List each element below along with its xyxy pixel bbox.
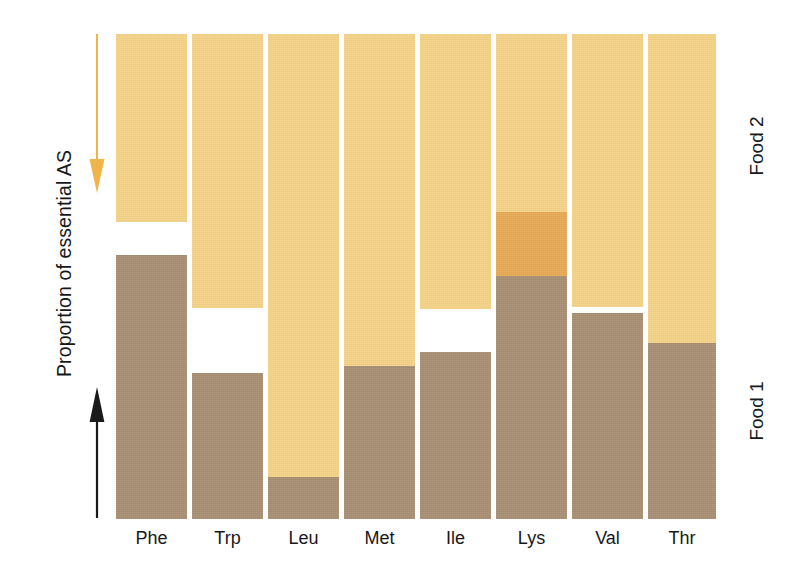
bar-column-val[interactable] [572,34,643,519]
bar-column-trp[interactable] [192,34,263,519]
x-tick-label-thr: Thr [648,528,716,549]
x-tick-label-val: Val [572,528,643,549]
bar-segment-food1 [648,343,716,519]
bar-column-ile[interactable] [420,34,491,519]
bar-segment-food2 [420,34,491,309]
x-axis-tick-labels: Phe Trp Leu Met Ile Lys Val Thr [116,528,716,558]
bar-column-phe[interactable] [116,34,187,519]
y-axis-title: Proportion of essential AS [53,94,76,434]
bar-column-met[interactable] [344,34,415,519]
plot-area [116,34,716,519]
series-label-food1: Food 1 [746,346,768,476]
bar-segment-food2 [192,34,263,308]
stacked-bar-chart: Proportion of essential AS [0,0,810,582]
bar-segment-food2 [648,34,716,343]
bar-segment-food2 [344,34,415,366]
bar-segment-food1 [192,373,263,519]
bar-column-thr[interactable] [648,34,716,519]
bar-column-lys[interactable] [496,34,567,519]
x-tick-label-leu: Leu [268,528,339,549]
series-label-food2: Food 2 [746,81,768,211]
x-tick-label-met: Met [344,528,415,549]
bar-segment-food2 [572,34,643,307]
x-tick-label-ile: Ile [420,528,491,549]
bar-segment-food1 [116,255,187,519]
bar-segment-food2 [116,34,187,222]
x-tick-label-phe: Phe [116,528,187,549]
bar-segment-food2 [496,34,567,212]
x-tick-label-trp: Trp [192,528,263,549]
bar-segment-food1 [572,313,643,519]
bar-segment-food1 [344,366,415,519]
bar-column-leu[interactable] [268,34,339,519]
bar-segment-food1 [496,276,567,519]
food1-direction-arrow-up-icon [86,386,108,520]
bar-segment-food2 [268,34,339,477]
bar-segment-food2-highlight [496,212,567,276]
bar-segment-food1 [268,477,339,519]
food2-direction-arrow-down-icon [86,32,108,194]
x-tick-label-lys: Lys [496,528,567,549]
bar-segment-food1 [420,352,491,519]
